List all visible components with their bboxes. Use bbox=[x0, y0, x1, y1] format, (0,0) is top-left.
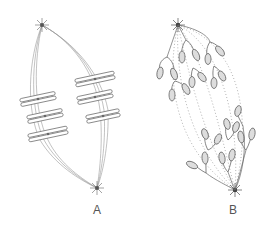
pole-top-a bbox=[35, 18, 49, 32]
chromosomes-a-right bbox=[75, 71, 121, 124]
chromatids-b-upper bbox=[156, 40, 227, 101]
panel-b: B bbox=[156, 18, 256, 217]
pole-bottom-a bbox=[90, 181, 104, 195]
panel-label-a: A bbox=[93, 203, 101, 217]
chromatids-b-lower bbox=[185, 105, 256, 173]
panel-a: A bbox=[20, 18, 121, 217]
mitosis-diagram: A bbox=[0, 0, 268, 228]
panel-label-b: B bbox=[229, 203, 237, 217]
spindle-fibers-b bbox=[173, 25, 243, 190]
spindle-fibers-a bbox=[30, 25, 108, 188]
chromosomes-a-left bbox=[20, 91, 69, 142]
